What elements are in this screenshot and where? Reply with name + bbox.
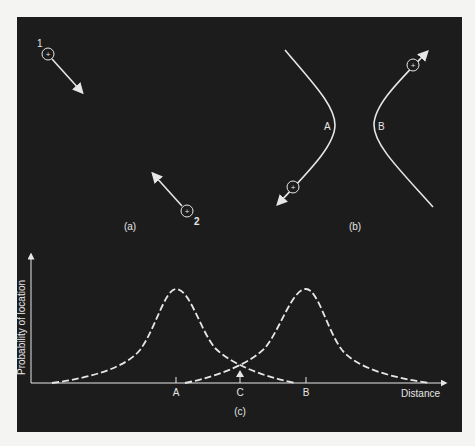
intersection-marker-icon	[236, 370, 244, 377]
tick-label-b: B	[303, 387, 310, 398]
particle-2-label: 2	[194, 216, 200, 227]
panel-b: + A + B (b)	[280, 50, 433, 232]
panel-c: Probability of location Distance A C B (…	[16, 256, 444, 417]
y-axis-label: Probability of location	[16, 280, 27, 375]
caption-b: (b)	[349, 221, 361, 232]
caption-c: (c)	[234, 406, 246, 417]
trajectory-b: + B	[374, 54, 433, 207]
panel-a: + 1 + 2 (a)	[37, 38, 200, 232]
x-axis-label: Distance	[401, 388, 440, 399]
probability-curve-b	[185, 289, 430, 383]
trajectory-b-label: B	[378, 121, 385, 132]
tick-label-a: A	[173, 387, 180, 398]
particle-1: + 1	[37, 38, 80, 90]
caption-a: (a)	[124, 221, 136, 232]
figure-drawing: + 1 + 2 (a) + A + B (b) Pro	[0, 0, 475, 446]
tick-label-c: C	[236, 387, 243, 398]
particle-1-label: 1	[37, 38, 43, 49]
particle-2: + 2	[155, 176, 200, 227]
probability-curve-a	[52, 289, 295, 383]
plus-icon: +	[46, 50, 51, 59]
plus-icon: +	[291, 183, 296, 192]
arrow-icon	[52, 59, 80, 90]
plus-icon: +	[411, 61, 416, 70]
plus-icon: +	[185, 207, 190, 216]
arrow-icon	[155, 176, 182, 206]
trajectory-a: + A	[280, 50, 335, 202]
trajectory-a-label: A	[324, 121, 331, 132]
